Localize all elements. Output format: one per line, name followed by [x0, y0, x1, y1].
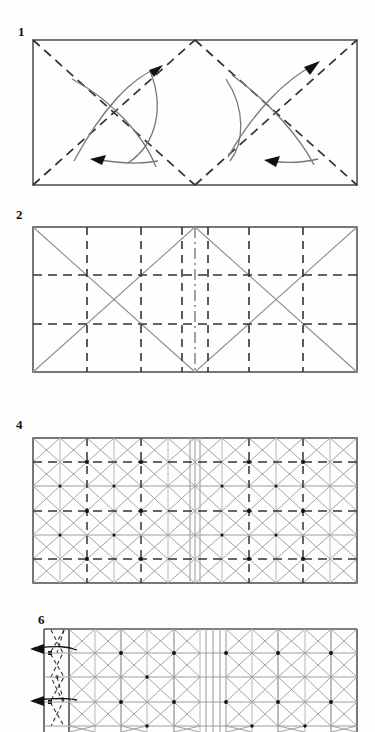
arrowhead-down-left: [90, 155, 106, 165]
step-number-6: 6: [38, 613, 45, 626]
step-4-diagram: [32, 437, 358, 584]
step-1-diagram: [32, 39, 358, 186]
figure-step-1: [32, 39, 358, 186]
arrowhead-up-right: [304, 61, 320, 75]
left-square-diagonals: [33, 40, 195, 185]
step-2-diagram: [32, 226, 358, 373]
step-number-2: 2: [16, 208, 23, 221]
minor-vertical-creases: [95, 629, 305, 732]
arrowhead-down-right: [264, 156, 280, 167]
step-number-4: 4: [16, 418, 23, 431]
center-pleat-band: [206, 629, 226, 732]
instruction-sheet: 1: [0, 0, 375, 732]
paper-outline: [33, 40, 357, 185]
left-curved-arrows: [72, 67, 160, 167]
figure-step-2: [32, 226, 358, 373]
horizontal-creases: [44, 653, 357, 726]
step-number-1: 1: [18, 25, 25, 38]
figure-step-4: [32, 437, 358, 584]
figure-step-6: [43, 628, 358, 732]
step-6-diagram: [43, 628, 358, 732]
